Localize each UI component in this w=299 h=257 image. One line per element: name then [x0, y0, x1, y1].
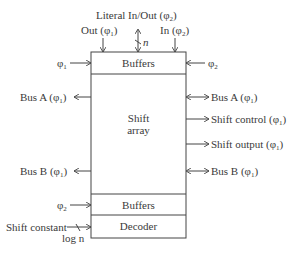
bus-width-n-label: n [143, 36, 149, 48]
out-phi1-label: Out (φ1) [81, 24, 117, 40]
shift-constant-label: Shift constant [6, 221, 67, 233]
shift-output-label: Shift output (φ1) [211, 138, 283, 154]
top-buffers-block: Buffers [91, 57, 186, 69]
log-n-label: log n [62, 232, 84, 244]
left-bus-a-label: Bus A (φ1) [20, 91, 67, 107]
shift-array-label-line1: Shift [91, 112, 186, 124]
literal-io-label: Literal In/Out (φ2) [96, 9, 177, 25]
in-phi2-label: In (φ2) [160, 24, 189, 40]
decoder-block: Decoder [91, 220, 186, 232]
left-bus-b-label: Bus B (φ1) [20, 165, 67, 181]
right-bus-b-label: Bus B (φ1) [211, 165, 258, 181]
right-bus-a-label: Bus A (φ1) [211, 91, 258, 107]
shift-control-label: Shift control (φ1) [211, 113, 286, 129]
bottom-buffers-block: Buffers [91, 199, 186, 211]
phi2-clock-label: φ2 [208, 57, 218, 73]
shift-array-label-line2: array [91, 124, 186, 136]
phi1-clock-label: φ1 [57, 57, 67, 73]
phi2-bottom-clock-label: φ2 [57, 199, 67, 215]
